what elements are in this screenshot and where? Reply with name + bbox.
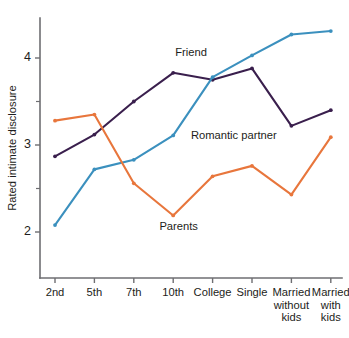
line-chart: 234 2nd5th7th10thCollegeSingleMarriedwit… (0, 0, 349, 338)
data-point (329, 29, 333, 33)
data-point (93, 167, 97, 171)
x-axis-tick-labels: 2nd5th7th10thCollegeSingleMarriedwithout… (46, 286, 349, 323)
y-axis-title: Rated intimate disclosure (6, 85, 18, 211)
data-point (132, 158, 136, 162)
y-tick-label: 2 (24, 224, 31, 238)
data-point (329, 135, 333, 139)
chart-svg: 234 2nd5th7th10thCollegeSingleMarriedwit… (0, 0, 349, 338)
data-point (250, 164, 254, 168)
data-point (53, 119, 57, 123)
y-tick-label: 4 (24, 50, 31, 64)
data-point (53, 154, 57, 158)
data-point (93, 113, 97, 117)
x-tick-label: Single (236, 286, 267, 298)
data-point (250, 67, 254, 71)
data-point (290, 124, 294, 128)
series-label-friend: Friend (175, 46, 207, 58)
x-tick-label: 10th (162, 286, 184, 298)
data-point (211, 174, 215, 178)
x-tick-label: 7th (126, 286, 142, 298)
data-point (132, 100, 136, 104)
y-axis-tick-labels: 234 (24, 50, 31, 238)
x-tick-label: Marriedwithoutkids (272, 286, 310, 323)
data-point (290, 33, 294, 37)
series-friend (53, 67, 333, 159)
data-point (53, 223, 57, 227)
series-label-parents: Parents (159, 220, 198, 232)
data-point (171, 134, 175, 138)
data-point (171, 214, 175, 218)
x-tick-label: Marriedwithkids (312, 286, 349, 323)
data-point (250, 53, 254, 57)
data-point (290, 193, 294, 197)
data-point (329, 108, 333, 112)
series-path (55, 68, 331, 156)
data-point (132, 181, 136, 185)
y-tick-label: 3 (24, 137, 31, 151)
series-label-romantic-partner: Romantic partner (191, 129, 277, 141)
x-tick-label: College (194, 286, 232, 298)
x-tick-label: 5th (87, 286, 103, 298)
data-point (93, 133, 97, 137)
x-tick-label: 2nd (46, 286, 65, 298)
data-point (211, 75, 215, 79)
data-point (171, 71, 175, 75)
